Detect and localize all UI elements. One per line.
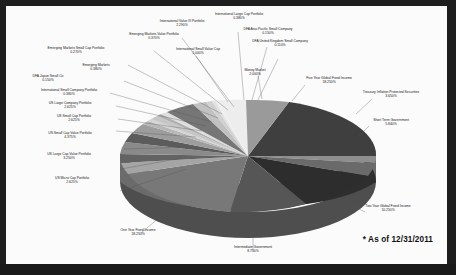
label-em-value: Emerging Markets Value Portfolio 0.370% <box>104 32 204 41</box>
label-us-large-company: US Large Company Portfolio 2.625% <box>24 101 116 110</box>
label-intl-small-value-cap: International Small Value Cap 1.000% <box>152 47 244 56</box>
label-one-year-fixed: One Year Fixed Income 18.250% <box>92 228 184 237</box>
label-us-small-cap: US Small Cap Portfolio 2.625% <box>32 114 116 123</box>
label-us-small-cap-value: US Small Cap Value Portfolio 4.375% <box>20 131 120 140</box>
label-us-micro-cap: US Micro Cap Portfolio 2.625% <box>28 176 116 185</box>
label-intl-value-iii: International Value III Portfolio 2.290% <box>134 19 230 28</box>
chart-area: International Large Cap Portfolio 0.380%… <box>6 6 447 264</box>
label-intl-small-company: International Small Company Portfolio 0.… <box>16 88 122 97</box>
label-five-year-global: Five Year Global Fixed Income 18.250% <box>280 76 378 85</box>
label-em-small-cap: Emerging Markets Small Cap Portfolio 0.2… <box>22 46 130 55</box>
label-emerging-markets: Emerging Markets 0.380% <box>66 63 126 72</box>
label-intermediate-gov: Intermediate Government 8.750% <box>206 245 300 254</box>
label-dfa-asia-pacific: DFA Asia Pacific Small Company 0.150% <box>218 27 318 36</box>
label-tips: Treasury Inflation Protected Securities … <box>336 90 446 99</box>
slide-canvas: International Large Cap Portfolio 0.380%… <box>0 0 456 275</box>
label-money-market: Money Market 2.000% <box>224 68 286 77</box>
frame-band-right <box>447 0 456 275</box>
as-of-date-footnote: * As of 12/31/2011 <box>363 235 433 244</box>
frame-band-bottom <box>0 264 456 275</box>
label-short-term-gov: Short Term Government 5.840% <box>350 118 432 127</box>
label-two-year-global: Two Year Global Fixed Income 10.250% <box>336 204 440 213</box>
label-dfa-japan-small: DFA Japan Small Co 0.150% <box>12 74 84 83</box>
label-us-large-cap-value: US Large Cap Value Portfolio 3.250% <box>18 152 120 161</box>
